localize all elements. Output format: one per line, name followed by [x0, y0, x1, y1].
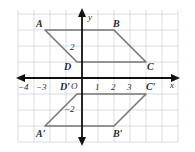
vertex-label-a-prime: A′ — [35, 128, 46, 139]
plot-svg: x y O −4 −3 1 2 3 2 −2 A B C D A′ B′ C′ … — [0, 0, 195, 152]
y-axis-label: y — [87, 12, 92, 22]
y-tick-2: 2 — [70, 42, 75, 52]
x-tick-neg3: −3 — [36, 82, 47, 92]
coordinate-plane: x y O −4 −3 1 2 3 2 −2 A B C D A′ B′ C′ … — [0, 0, 195, 152]
vertex-label-b-prime: B′ — [112, 128, 123, 139]
vertex-label-b: B — [112, 18, 120, 29]
vertex-label-d: D — [63, 61, 71, 72]
vertex-label-d-prime: D′ — [59, 81, 70, 92]
x-tick-3: 3 — [126, 82, 132, 92]
vertex-label-c-prime: C′ — [146, 81, 156, 92]
y-tick-neg2: −2 — [64, 104, 75, 114]
x-axis-label: x — [169, 80, 174, 90]
vertex-label-a: A — [35, 18, 43, 29]
x-tick-neg4: −4 — [18, 82, 29, 92]
origin-label: O — [71, 81, 78, 91]
x-tick-2: 2 — [111, 82, 116, 92]
reflection-diagram: x y O −4 −3 1 2 3 2 −2 A B C D A′ B′ C′ … — [0, 0, 195, 152]
vertex-label-c: C — [147, 61, 154, 72]
x-tick-1: 1 — [95, 82, 100, 92]
